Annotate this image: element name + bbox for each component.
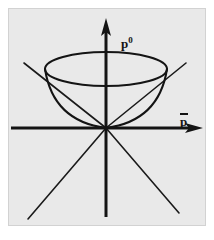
p-vector-axis-label: p	[180, 114, 187, 128]
vector-bar-icon	[180, 113, 188, 115]
asymptote-lower-left	[28, 128, 106, 219]
p0-axis-label: p0	[121, 37, 133, 50]
light-cone-figure: p0 p	[0, 0, 214, 240]
p0-axis-label-superscript: 0	[128, 35, 133, 45]
light-cone-diagram	[9, 9, 205, 225]
asymptote-upper-left	[24, 63, 106, 128]
p-vector-axis-label-base: p	[180, 114, 187, 129]
asymptote-lower-right	[106, 128, 179, 213]
p0-axis	[101, 18, 111, 217]
plot-panel: p0 p	[8, 8, 206, 226]
asymptote-upper-right	[106, 63, 186, 128]
